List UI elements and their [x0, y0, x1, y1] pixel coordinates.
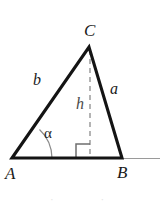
vertex-label-c: C: [84, 22, 95, 39]
geometry-figure: C A B b a h α · ·: [0, 0, 160, 205]
angle-label-alpha: α: [44, 126, 52, 141]
altitude-label-h: h: [76, 96, 84, 112]
right-angle-marker: [76, 144, 90, 158]
vertex-label-a: A: [5, 165, 15, 182]
cropped-text-fragment: · ·: [50, 194, 126, 205]
side-label-b: b: [33, 72, 41, 88]
triangle-outline: [12, 47, 122, 158]
side-label-a: a: [110, 81, 118, 97]
vertex-label-b: B: [117, 164, 127, 181]
